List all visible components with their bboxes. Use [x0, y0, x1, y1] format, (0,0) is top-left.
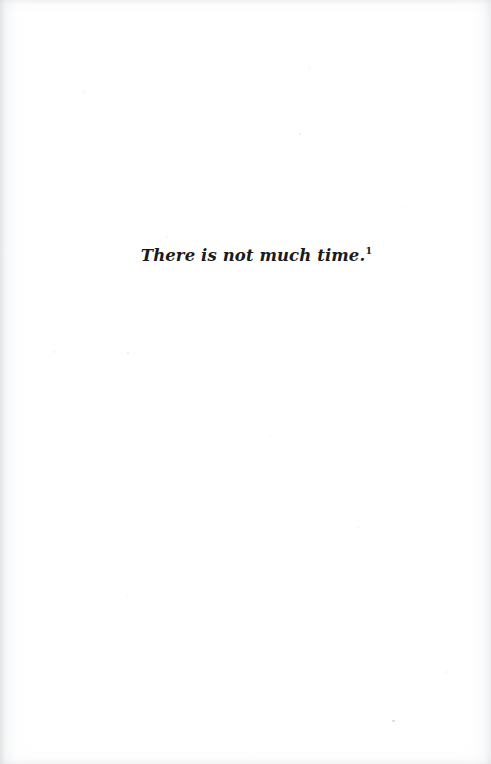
- paper-grain-overlay: [0, 0, 491, 764]
- body-text: There is not much time.: [141, 246, 366, 265]
- scan-speck-mid-left: [127, 352, 129, 354]
- scan-speck-lower-right: [392, 720, 395, 722]
- scanned-page: There is not much time.1: [0, 0, 491, 764]
- footnote-reference-marker[interactable]: 1: [366, 245, 373, 256]
- scan-speck-upper-mid: [299, 133, 301, 135]
- paper-texture-overlay: [0, 0, 491, 764]
- body-text-line: There is not much time.1: [141, 245, 372, 267]
- page-text-block: There is not much time.1: [0, 228, 491, 283]
